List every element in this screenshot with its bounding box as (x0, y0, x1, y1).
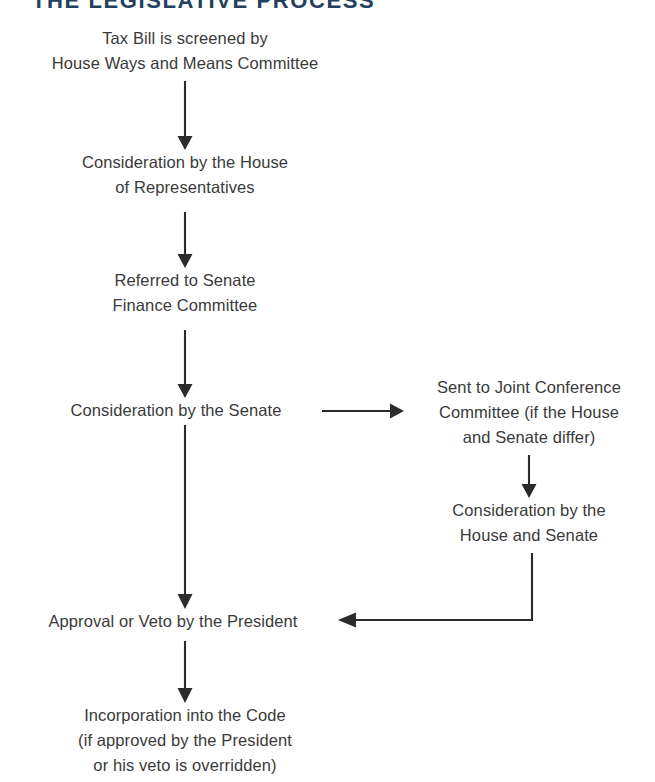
edge-conference-to-president (338, 553, 532, 628)
edge-joint-to-conference (522, 455, 537, 498)
edge-house-to-referred (178, 212, 193, 268)
edge-senate-to-joint (322, 404, 404, 419)
node-consideration-senate[interactable]: Consideration by the Senate (30, 398, 322, 423)
edge-president-to-code (178, 641, 193, 703)
flowchart-page: THE LEGISLATIVE PROCESS (0, 0, 655, 782)
node-tax-bill-screened[interactable]: Tax Bill is screened by House Ways and M… (30, 26, 340, 76)
edge-senate-to-president (178, 425, 193, 609)
page-title: THE LEGISLATIVE PROCESS (32, 0, 375, 14)
node-referred-senate-finance[interactable]: Referred to Senate Finance Committee (30, 268, 340, 318)
node-incorporation-into-code[interactable]: Incorporation into the Code (if approved… (20, 703, 350, 778)
node-consideration-house-and-senate[interactable]: Consideration by the House and Senate (410, 498, 648, 548)
edge-referred-to-senate (178, 330, 193, 398)
edge-screened-to-house (178, 81, 193, 150)
node-joint-conference-committee[interactable]: Sent to Joint Conference Committee (if t… (410, 375, 648, 450)
node-approval-or-veto-president[interactable]: Approval or Veto by the President (12, 609, 334, 634)
node-consideration-house[interactable]: Consideration by the House of Representa… (30, 150, 340, 200)
